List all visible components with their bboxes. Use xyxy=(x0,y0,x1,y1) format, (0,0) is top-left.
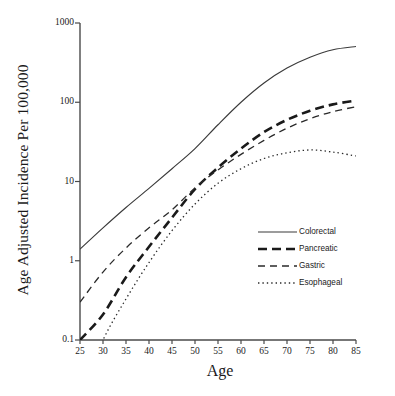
legend-label-esophageal: Esophageal xyxy=(299,278,342,287)
legend-label-colorectal: Colorectal xyxy=(299,227,336,236)
series-line-gastric xyxy=(80,107,356,303)
y-axis-ticks xyxy=(75,23,80,340)
x-axis-title: Age xyxy=(80,362,360,380)
y-axis-title: Age Adjusted Incidence Per 100,000 xyxy=(10,10,36,350)
series-line-pancreatic xyxy=(80,101,356,340)
legend-label-pancreatic: Pancreatic xyxy=(299,244,338,253)
series-line-colorectal xyxy=(80,47,356,250)
legend-label-gastric: Gastric xyxy=(299,261,325,270)
legend-swatch-group xyxy=(258,232,297,283)
chart-figure: 10001001010.1 25303540455055606570758085… xyxy=(0,0,395,396)
series-line-esophageal xyxy=(80,150,356,395)
x-tick-label: 85 xyxy=(342,346,370,356)
